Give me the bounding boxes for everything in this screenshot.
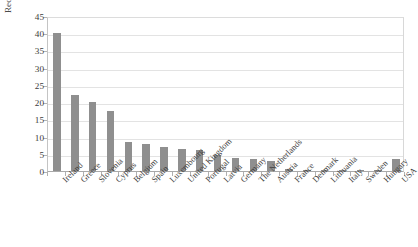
- x-axis-category-label: Germany: [239, 178, 245, 184]
- x-axis-category-label: Cyprus: [114, 178, 120, 184]
- x-axis-category-label: Spain: [150, 178, 156, 184]
- x-axis-category-label: France: [293, 178, 299, 184]
- x-axis-category-label: Lithuania: [329, 178, 335, 184]
- x-axis-category-label: USA: [400, 178, 406, 184]
- x-axis-category-labels: IrelandGreeceSloveniaCyprusBelgiumSpainL…: [47, 178, 418, 247]
- bar: [53, 33, 60, 171]
- y-axis-tick-label: 10: [22, 133, 44, 143]
- y-axis-tick-label: 45: [22, 12, 44, 22]
- y-axis-tick-labels: 051015202530354045: [22, 12, 44, 176]
- x-axis-category-label: Denmark: [311, 178, 317, 184]
- x-axis-category-label: Latvia: [222, 178, 228, 184]
- y-axis-tick-label: 15: [22, 115, 44, 125]
- y-axis-tick-label: 40: [22, 29, 44, 39]
- x-axis-category-label: Portugal: [204, 178, 210, 184]
- x-axis-category-label: Luxembourg: [168, 178, 174, 184]
- x-axis-category-label: Ireland: [61, 178, 67, 184]
- y-axis-title: Recapitalisation costs (% of GDP): [0, 0, 16, 30]
- x-axis-category-label: Belgium: [132, 178, 138, 184]
- x-axis-category-label: Austria: [275, 178, 281, 184]
- y-axis-tick-label: 25: [22, 81, 44, 91]
- x-axis-category-label: Sweden: [364, 178, 370, 184]
- x-axis-tick-mark: [47, 172, 48, 176]
- y-axis-tick-label: 35: [22, 46, 44, 56]
- bar-chart-figure: Recapitalisation costs (% of GDP) 051015…: [0, 0, 418, 247]
- y-axis-tick-label: 0: [22, 167, 44, 177]
- x-axis-category-label: Hungary: [382, 178, 388, 184]
- y-axis-tick-label: 5: [22, 150, 44, 160]
- x-axis-category-label: Slovenia: [97, 178, 103, 184]
- x-axis-category-label: Greece: [79, 178, 85, 184]
- y-axis-tick-label: 20: [22, 98, 44, 108]
- x-axis-category-label: Italy: [347, 178, 353, 184]
- x-axis-category-label: United Kingdom: [186, 178, 192, 184]
- y-axis-tick-label: 30: [22, 64, 44, 74]
- x-axis-category-label: The Netherlands: [257, 178, 263, 184]
